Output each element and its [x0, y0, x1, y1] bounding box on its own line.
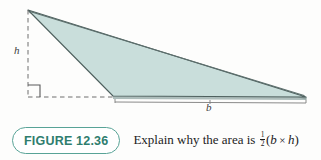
close-paren: ) [294, 132, 298, 148]
figure-caption-text: Explain why the area is 1 2 ( b × h ) [133, 132, 321, 148]
one-half-fraction: 1 2 [260, 131, 266, 147]
height-label: h [14, 45, 20, 56]
triangle-diagram-svg [0, 0, 321, 120]
right-angle-marker [28, 85, 40, 97]
figure-drawing-area [0, 0, 321, 120]
fraction-numerator: 1 [260, 131, 266, 139]
caption-prefix: Explain why the area is [133, 132, 258, 148]
base-label: b [206, 102, 212, 113]
multiplication-symbol: × [277, 134, 288, 146]
figure-number-badge: FIGURE 12.36 [12, 127, 120, 154]
fraction-denominator: 2 [260, 139, 266, 148]
figure-caption-row: FIGURE 12.36 Explain why the area is 1 2… [0, 120, 321, 160]
figure-number-label: FIGURE 12.36 [24, 134, 108, 148]
